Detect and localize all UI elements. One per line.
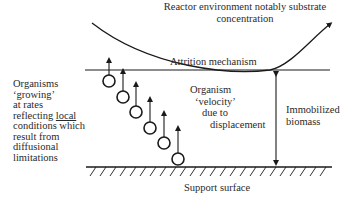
organisms-growing-label: Organisms ‘growing’ at rates reflecting … bbox=[13, 79, 85, 163]
organisms bbox=[103, 75, 184, 165]
local-emphasis: local bbox=[56, 110, 76, 121]
organism-2 bbox=[117, 91, 129, 103]
organism-3 bbox=[130, 106, 142, 118]
reactor-environment-label: Reactor environment notably substrate co… bbox=[140, 1, 348, 24]
organism-4 bbox=[144, 122, 156, 134]
organism-6 bbox=[172, 153, 184, 165]
immobilized-biomass-label: Immobilized biomass bbox=[286, 104, 340, 127]
organism-5 bbox=[158, 137, 170, 149]
organism-1 bbox=[103, 75, 115, 87]
support-hatching bbox=[90, 167, 326, 176]
support-surface-label: Support surface bbox=[184, 182, 250, 194]
attrition-mechanism-label: Attrition mechanism bbox=[170, 56, 257, 68]
organism-velocity-label: Organism ‘velocity’ due to displacement bbox=[190, 84, 265, 130]
